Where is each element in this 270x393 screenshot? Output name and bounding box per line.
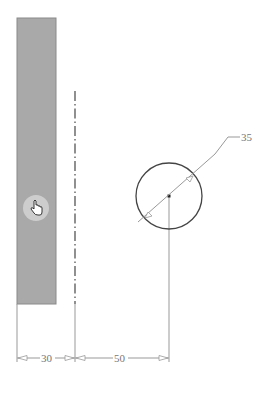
width-dimension-label[interactable]: 30 xyxy=(41,352,53,364)
width-arrow-left xyxy=(18,356,27,361)
offset-dimension-label[interactable]: 50 xyxy=(114,352,126,364)
sketch-canvas[interactable]: 35 30 50 xyxy=(0,0,270,393)
offset-arrow-right xyxy=(159,356,168,361)
width-arrow-right xyxy=(65,356,74,361)
diameter-dimension-label[interactable]: 35 xyxy=(241,131,253,143)
diameter-arrow-upper xyxy=(186,176,193,182)
diameter-leader xyxy=(215,137,240,154)
sketch-rectangle[interactable] xyxy=(17,18,56,304)
offset-arrow-left xyxy=(76,356,85,361)
